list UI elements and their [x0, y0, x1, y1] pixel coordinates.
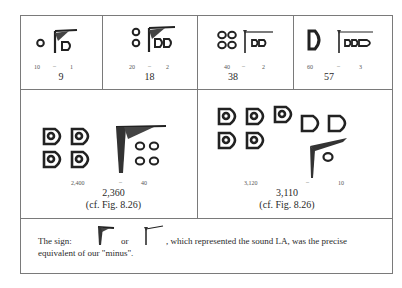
note-or: or — [121, 235, 129, 247]
result-value: 38 — [185, 71, 281, 82]
minus-sign: – — [242, 63, 245, 69]
minus-sign: – — [337, 63, 340, 69]
right-operand: 3 — [359, 64, 362, 70]
example-cell-57: 60 – 3 57 — [293, 15, 393, 89]
figure-reference: (cf. Fig. 8.26) — [189, 199, 385, 210]
left-operand: 40 — [224, 64, 230, 70]
right-operand: 40 — [141, 180, 147, 186]
cuneiform-sixty-icon — [306, 29, 324, 51]
minus-sign: – — [148, 63, 151, 69]
result-value: 3,110 — [189, 187, 385, 198]
right-operand: 1 — [70, 64, 73, 70]
figure-reference: (cf. Fig. 8.26) — [25, 199, 202, 210]
cuneiform-ten-icon — [36, 38, 46, 48]
example-cell-18: 20 – 2 18 — [102, 15, 197, 89]
cuneiform-lal-sign-variant1-icon — [96, 225, 116, 247]
example-cell-9: 10 – 1 9 — [20, 15, 102, 89]
right-operand: 10 — [338, 180, 344, 186]
result-value: 18 — [102, 71, 197, 82]
left-operand: 60 — [307, 64, 313, 70]
cuneiform-forty-icon — [217, 30, 239, 52]
example-cell-2360: 2,400 – 40 2,360 (cf. Fig. 8.26) — [20, 89, 197, 218]
cuneiform-lal-minus-icon — [114, 125, 184, 175]
result-value: 2,360 — [25, 187, 202, 198]
left-operand: 20 — [129, 64, 135, 70]
minus-sign: – — [306, 179, 309, 185]
note-suffix: , which represented the sound LA, was th… — [166, 235, 347, 247]
example-cell-3110: 3,120 – 10 3,110 (cf. Fig. 8.26) — [197, 89, 393, 218]
cuneiform-lal-minus-icon — [53, 29, 83, 55]
cuneiform-lal-sign-variant2-icon — [143, 225, 167, 247]
left-operand: 10 — [34, 64, 40, 70]
minus-sign: – — [119, 179, 122, 185]
note-line2: equivalent of our "minus". — [38, 247, 368, 259]
right-operand: 2 — [166, 64, 169, 70]
left-operand: 2,400 — [71, 180, 85, 186]
cuneiform-2400-icon — [41, 126, 101, 174]
left-operand: 3,120 — [244, 180, 258, 186]
minus-sign-note: The sign: or , which represented the sou… — [38, 235, 368, 259]
right-operand: 2 — [262, 64, 265, 70]
result-value: 9 — [20, 71, 102, 82]
cuneiform-lal-minus-icon — [337, 29, 381, 55]
cuneiform-lal-minus-icon — [243, 29, 279, 55]
minus-sign: – — [53, 63, 56, 69]
note-prefix: The sign: — [38, 236, 72, 246]
cuneiform-lal-minus-icon — [147, 26, 187, 54]
result-value: 57 — [279, 71, 379, 82]
cuneiform-lal-minus-icon — [307, 138, 357, 180]
divider — [20, 218, 393, 219]
cuneiform-twenty-icon — [131, 27, 141, 49]
